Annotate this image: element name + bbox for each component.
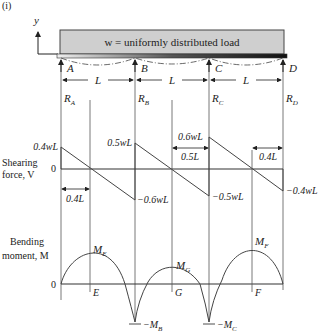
moment-title-line2: moment, M <box>2 250 49 261</box>
svg-text:MF: MF <box>254 235 269 250</box>
support-label-d: D <box>288 62 297 74</box>
span-label-ab: L <box>94 74 101 86</box>
reaction-arrows <box>61 60 283 72</box>
shear-dim-span1: 0.4L <box>66 193 85 204</box>
svg-text:RD: RD <box>285 92 298 107</box>
shear-d-left: −0.4wL <box>286 185 318 196</box>
shear-b-right: 0.5wL <box>107 137 132 148</box>
span-label-cd: L <box>242 74 249 86</box>
shear-title-line2: force, V <box>2 169 35 180</box>
support-label-c: C <box>215 62 223 74</box>
shear-zero: 0 <box>51 163 56 174</box>
moment-zero: 0 <box>51 279 56 290</box>
svg-text:−MC: −MC <box>217 319 237 332</box>
moment-title-line1: Bending <box>10 236 44 247</box>
reaction-labels: RA RB RC RD <box>63 92 298 107</box>
load-label: w = uniformly distributed load <box>104 36 240 48</box>
svg-text:G: G <box>175 287 182 298</box>
svg-text:ME: ME <box>92 243 107 258</box>
moment-point-lines <box>90 200 252 292</box>
deflected-shape <box>61 58 283 65</box>
svg-text:E: E <box>92 287 99 298</box>
svg-text:RA: RA <box>63 92 76 107</box>
support-label-a: A <box>66 62 74 74</box>
support-label-b: B <box>141 62 148 74</box>
shear-dim-span2: 0.5L <box>181 151 200 162</box>
shear-a-right: 0.4wL <box>33 141 58 152</box>
beam <box>57 54 287 58</box>
y-axis-label: y <box>33 14 39 26</box>
shear-c-right: 0.6wL <box>178 131 203 142</box>
y-axis-indicator: y <box>33 14 58 54</box>
shear-dim-span3: 0.4L <box>259 151 278 162</box>
svg-text:RC: RC <box>211 92 224 107</box>
figure-label: (i) <box>2 0 11 12</box>
svg-text:−MB: −MB <box>143 319 163 332</box>
continuous-beam-diagram: (i) y w = uniformly distributed load A B… <box>0 0 329 332</box>
svg-text:RB: RB <box>137 92 150 107</box>
shear-b-left: −0.6wL <box>137 194 169 205</box>
span-label-bc: L <box>168 74 175 86</box>
svg-text:F: F <box>254 287 262 298</box>
svg-text:MG: MG <box>175 259 190 274</box>
shear-title-line1: Shearing <box>2 157 38 168</box>
shear-c-left: −0.5wL <box>212 191 244 202</box>
